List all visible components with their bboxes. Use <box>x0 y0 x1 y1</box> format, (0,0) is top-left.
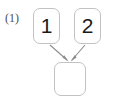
edge-two-to-result <box>72 45 85 60</box>
node-two[interactable]: 2 <box>74 8 101 44</box>
node-result[interactable] <box>54 62 86 96</box>
arrowhead-two-to-result <box>71 55 77 62</box>
node-two-label: 2 <box>82 15 94 36</box>
diagram-canvas: (1) 1 2 <box>0 0 121 103</box>
arrowhead-one-to-result <box>62 55 68 61</box>
figure-caption: (1) <box>5 9 31 27</box>
node-one-label: 1 <box>41 15 53 36</box>
node-one[interactable]: 1 <box>33 8 60 44</box>
edge-one-to-result <box>50 45 67 60</box>
